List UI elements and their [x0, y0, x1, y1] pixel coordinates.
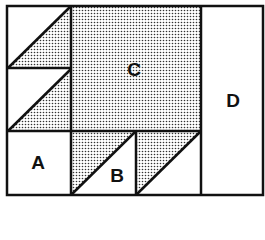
label-a: A: [31, 152, 45, 174]
label-b: B: [110, 165, 124, 187]
label-c: C: [127, 59, 141, 81]
label-d: D: [226, 90, 240, 112]
